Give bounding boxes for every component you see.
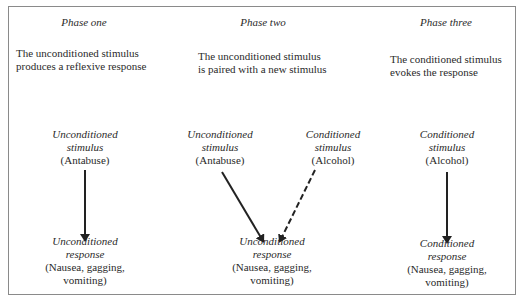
arrow-phase-two-solid [222, 172, 263, 241]
arrows-layer [0, 0, 525, 304]
arrow-phase-two-dashed [280, 170, 315, 241]
